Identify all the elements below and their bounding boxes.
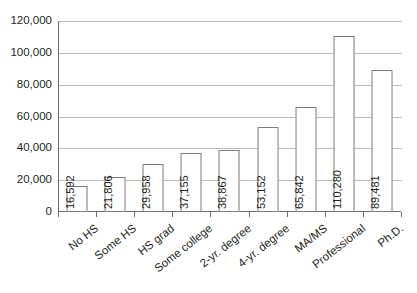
x-axis-tick bbox=[96, 212, 97, 217]
x-axis-category-label: Ph.D. bbox=[375, 222, 405, 249]
x-axis: No HSSome HSHS gradSome college2-yr. deg… bbox=[0, 0, 417, 293]
x-axis-tick bbox=[363, 212, 364, 217]
x-axis-tick bbox=[134, 212, 135, 217]
x-axis-tick bbox=[58, 212, 59, 217]
x-axis-tick bbox=[287, 212, 288, 217]
x-axis-tick bbox=[172, 212, 173, 217]
bar-chart: 020,00040,00060,00080,000100,000120,000 … bbox=[0, 0, 417, 293]
x-axis-tick bbox=[249, 212, 250, 217]
x-axis-tick bbox=[401, 212, 402, 217]
x-axis-category-label: Some HS bbox=[92, 222, 138, 262]
x-axis-tick bbox=[210, 212, 211, 217]
x-axis-category-label: No HS bbox=[66, 222, 100, 252]
x-axis-tick bbox=[325, 212, 326, 217]
